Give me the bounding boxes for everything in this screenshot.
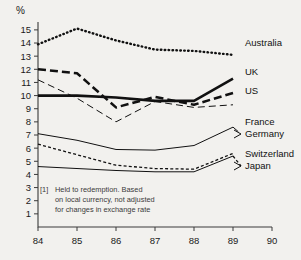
- y-tick-label: 10: [20, 90, 31, 101]
- y-tick-label: 14: [20, 37, 31, 48]
- series-label-uk: UK: [245, 66, 259, 77]
- footnote-line-3: for changes in exchange rate: [55, 205, 150, 214]
- series-label-australia: Australia: [245, 37, 283, 48]
- y-tick-label: 12: [20, 64, 31, 75]
- y-tick-label: 1: [26, 208, 31, 219]
- chart-series: [38, 29, 233, 172]
- y-tick-label: 6: [26, 143, 31, 154]
- footnote: [1] Held to redemption. Based on local c…: [40, 185, 155, 214]
- x-tick-label: 86: [111, 235, 122, 246]
- y-tick-label: 8: [26, 116, 31, 127]
- series-labels: AustraliaUKUSFranceGermanySwitzerlandJap…: [233, 37, 294, 171]
- series-label-france: France: [245, 116, 275, 127]
- y-axis-unit-label: %: [16, 5, 25, 16]
- footnote-line-1: Held to redemption. Based: [55, 185, 143, 194]
- y-tick-label: 4: [26, 169, 31, 180]
- series-line-uk: [38, 79, 233, 101]
- x-tick-label: 85: [72, 235, 83, 246]
- x-tick-label: 84: [33, 235, 44, 246]
- y-tick-label: 11: [21, 77, 31, 88]
- chart-canvas: 123456789101112131415 84858687888990 Aus…: [0, 0, 301, 260]
- series-line-germany: [38, 127, 233, 150]
- x-tick-label: 88: [189, 235, 200, 246]
- series-leader: [233, 156, 241, 166]
- series-line-japan: [38, 156, 233, 172]
- series-line-us: [38, 69, 233, 107]
- series-label-japan: Japan: [245, 160, 271, 171]
- footnote-marker: [1]: [40, 185, 48, 194]
- x-axis-labels: 84858687888990: [33, 235, 278, 246]
- x-tick-label: 87: [150, 235, 161, 246]
- y-tick-label: 5: [26, 156, 31, 167]
- bond-yield-chart: 123456789101112131415 84858687888990 Aus…: [0, 0, 301, 260]
- series-label-switzerland: Switzerland: [245, 148, 294, 159]
- x-tick-label: 89: [228, 235, 239, 246]
- y-tick-label: 13: [20, 51, 31, 62]
- series-label-germany: Germany: [245, 128, 284, 139]
- y-tick-label: 2: [26, 195, 31, 206]
- x-tick-label: 90: [267, 235, 278, 246]
- y-tick-label: 15: [20, 24, 31, 35]
- y-tick-label: 3: [26, 182, 31, 193]
- footnote-line-2: on local currency, not adjusted: [55, 195, 155, 204]
- y-tick-label: 7: [26, 129, 31, 140]
- series-line-australia: [38, 29, 233, 55]
- y-tick-label: 9: [26, 103, 31, 114]
- series-line-switzerland: [38, 144, 233, 169]
- y-axis-labels: 123456789101112131415: [20, 24, 31, 219]
- series-leader: [234, 162, 241, 170]
- series-label-us: US: [245, 85, 258, 96]
